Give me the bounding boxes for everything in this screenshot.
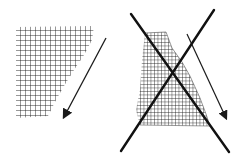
left-hatch-patch: [10, 20, 100, 120]
illustration-canvas: correct incorrect: [0, 0, 241, 166]
hatching-diagram: [0, 0, 241, 166]
